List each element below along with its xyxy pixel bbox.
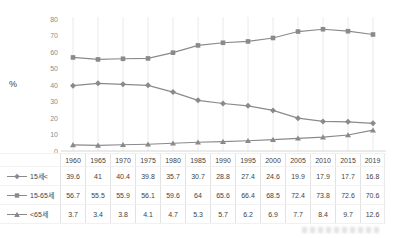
data-point-under-15 bbox=[220, 100, 226, 106]
value-cell-over-65: 5.3 bbox=[185, 205, 210, 223]
value-cell-15-to-65: 72.4 bbox=[285, 186, 310, 204]
table-row-under-15: 15세<39.64140.439.835.730.728.827.424.619… bbox=[0, 167, 386, 186]
legend-series-label: 15-65세 bbox=[30, 190, 54, 200]
data-point-15-to-65 bbox=[296, 29, 301, 34]
value-cell-under-15: 40.4 bbox=[110, 167, 135, 185]
year-header-cell: 1985 bbox=[185, 154, 210, 166]
data-point-15-to-65 bbox=[371, 32, 376, 37]
data-point-under-15 bbox=[95, 80, 101, 86]
value-cell-under-15: 17.7 bbox=[335, 167, 360, 185]
y-tick-label: 30 bbox=[50, 98, 58, 105]
data-point-15-to-65 bbox=[71, 55, 76, 60]
legend-cell-over-65: <65세 bbox=[0, 205, 60, 223]
value-cell-under-15: 17.9 bbox=[310, 167, 335, 185]
value-cell-under-15: 30.7 bbox=[185, 167, 210, 185]
legend-triangle-icon bbox=[7, 210, 27, 219]
value-cell-under-15: 19.9 bbox=[285, 167, 310, 185]
data-point-under-15 bbox=[170, 89, 176, 95]
value-cell-under-15: 16.8 bbox=[360, 167, 385, 185]
value-cell-15-to-65: 66.4 bbox=[235, 186, 260, 204]
value-cell-under-15: 24.6 bbox=[260, 167, 285, 185]
year-header-cell: 1965 bbox=[85, 154, 110, 166]
data-point-under-15 bbox=[270, 107, 276, 113]
value-cell-15-to-65: 59.6 bbox=[160, 186, 185, 204]
value-cell-under-15: 35.7 bbox=[160, 167, 185, 185]
data-point-15-to-65 bbox=[146, 56, 151, 61]
table-header-row: 1960196519701975198019851990199520002005… bbox=[0, 153, 386, 167]
data-point-15-to-65 bbox=[96, 57, 101, 62]
value-cell-over-65: 3.7 bbox=[60, 205, 85, 223]
value-cell-over-65: 8.4 bbox=[310, 205, 335, 223]
year-header-cell: 2010 bbox=[310, 154, 335, 166]
legend-diamond-icon bbox=[7, 172, 27, 181]
value-cell-over-65: 5.7 bbox=[210, 205, 235, 223]
value-cell-over-65: 3.8 bbox=[110, 205, 135, 223]
value-cell-over-65: 3.4 bbox=[85, 205, 110, 223]
value-cell-15-to-65: 64 bbox=[185, 186, 210, 204]
y-tick-label: 10 bbox=[50, 131, 58, 138]
year-header-cell: 1970 bbox=[110, 154, 135, 166]
legend-series-label: <65세 bbox=[30, 209, 48, 219]
y-tick-label: 20 bbox=[50, 115, 58, 122]
table-row-over-65: <65세3.73.43.84.14.75.35.76.26.97.78.49.7… bbox=[0, 205, 386, 224]
legend-header-blank-cell bbox=[0, 154, 60, 166]
year-header-cell: 1960 bbox=[60, 154, 85, 166]
data-point-under-15 bbox=[320, 118, 326, 124]
chart-figure: % 01020304050607080 19601965197019751980… bbox=[0, 0, 397, 238]
data-point-under-15 bbox=[70, 83, 76, 89]
table-row-15-to-65: 15-65세56.755.555.956.159.66465.666.468.5… bbox=[0, 186, 386, 205]
data-point-15-to-65 bbox=[221, 40, 226, 45]
value-cell-15-to-65: 68.5 bbox=[260, 186, 285, 204]
legend-cell-15-to-65: 15-65세 bbox=[0, 186, 60, 204]
year-header-cell: 1975 bbox=[135, 154, 160, 166]
year-header-cell: 1980 bbox=[160, 154, 185, 166]
data-point-under-15 bbox=[120, 81, 126, 87]
value-cell-15-to-65: 70.6 bbox=[360, 186, 385, 204]
data-point-under-15 bbox=[195, 97, 201, 103]
value-cell-over-65: 7.7 bbox=[285, 205, 310, 223]
data-point-15-to-65 bbox=[271, 36, 276, 41]
value-cell-under-15: 27.4 bbox=[235, 167, 260, 185]
chart-svg: 01020304050607080 bbox=[0, 0, 397, 154]
legend-cell-under-15: 15세< bbox=[0, 167, 60, 185]
data-point-under-15 bbox=[345, 119, 351, 125]
data-point-under-15 bbox=[245, 103, 251, 109]
data-point-under-15 bbox=[370, 120, 376, 126]
year-header-cell: 2005 bbox=[285, 154, 310, 166]
value-cell-15-to-65: 56.1 bbox=[135, 186, 160, 204]
value-cell-over-65: 4.7 bbox=[160, 205, 185, 223]
data-point-under-15 bbox=[145, 82, 151, 88]
value-cell-15-to-65: 72.6 bbox=[335, 186, 360, 204]
y-tick-label: 60 bbox=[50, 49, 58, 56]
data-point-15-to-65 bbox=[346, 29, 351, 34]
value-cell-over-65: 6.9 bbox=[260, 205, 285, 223]
y-tick-label: 50 bbox=[50, 65, 58, 72]
data-point-15-to-65 bbox=[246, 39, 251, 44]
value-cell-over-65: 12.6 bbox=[360, 205, 385, 223]
value-cell-15-to-65: 73.8 bbox=[310, 186, 335, 204]
value-cell-over-65: 4.1 bbox=[135, 205, 160, 223]
value-cell-under-15: 41 bbox=[85, 167, 110, 185]
value-cell-15-to-65: 55.5 bbox=[85, 186, 110, 204]
data-table: 1960196519701975198019851990199520002005… bbox=[0, 153, 386, 224]
y-tick-label: 70 bbox=[50, 32, 58, 39]
data-point-15-to-65 bbox=[121, 56, 126, 61]
data-point-15-to-65 bbox=[196, 43, 201, 48]
value-cell-over-65: 6.2 bbox=[235, 205, 260, 223]
data-point-15-to-65 bbox=[171, 50, 176, 55]
value-cell-over-65: 9.7 bbox=[335, 205, 360, 223]
value-cell-15-to-65: 56.7 bbox=[60, 186, 85, 204]
year-header-cell: 1990 bbox=[210, 154, 235, 166]
legend-series-label: 15세< bbox=[30, 171, 48, 181]
year-header-cell: 2015 bbox=[335, 154, 360, 166]
year-header-cell: 1995 bbox=[235, 154, 260, 166]
value-cell-under-15: 39.6 bbox=[60, 167, 85, 185]
value-cell-under-15: 28.8 bbox=[210, 167, 235, 185]
y-tick-label: 40 bbox=[50, 82, 58, 89]
value-cell-15-to-65: 65.6 bbox=[210, 186, 235, 204]
data-point-under-15 bbox=[295, 115, 301, 121]
year-header-cell: 2019 bbox=[360, 154, 385, 166]
legend-square-icon bbox=[7, 191, 27, 200]
data-point-15-to-65 bbox=[321, 27, 326, 32]
year-header-cell: 2000 bbox=[260, 154, 285, 166]
